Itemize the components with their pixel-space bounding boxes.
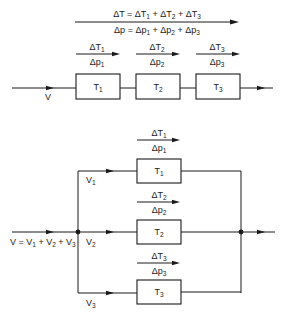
svg-text:ΔT1: ΔT1 <box>89 42 105 53</box>
arrowhead-icon <box>106 230 114 234</box>
svg-text:Δp3: Δp3 <box>152 266 167 277</box>
svg-text:ΔT3: ΔT3 <box>151 251 167 262</box>
svg-text:Δp2: Δp2 <box>150 57 165 68</box>
total-delta-p-formula: Δp = Δp1 + Δp2 + Δp3 <box>114 25 200 36</box>
svg-text:V2: V2 <box>86 237 96 248</box>
svg-text:V3: V3 <box>86 298 96 309</box>
parallel-diagram: V = V1 + V2 + V3 ΔT1 Δp1 V1 T1 ΔT2 <box>10 128 275 309</box>
arrowhead-icon <box>46 230 54 234</box>
arrowhead-icon <box>106 291 114 295</box>
series-element-2-deltas: ΔT2 Δp2 <box>136 42 180 68</box>
arrowhead-icon <box>112 52 120 56</box>
parallel-branch-2: ΔT2 Δp2 V2 T2 <box>78 190 241 248</box>
parallel-flow-total: V = V1 + V2 + V3 <box>10 237 76 248</box>
svg-text:ΔT1: ΔT1 <box>151 128 167 139</box>
svg-text:Δp1: Δp1 <box>90 57 105 68</box>
series-element-1-deltas: ΔT1 Δp1 <box>76 42 120 68</box>
svg-text:ΔT2: ΔT2 <box>149 42 165 53</box>
arrowhead-icon <box>172 200 180 204</box>
arrowhead-icon <box>232 52 240 56</box>
parallel-branch-1: ΔT1 Δp1 V1 T1 <box>78 128 241 186</box>
series-element-3-deltas: ΔT3 Δp3 <box>196 42 240 68</box>
parallel-branch-3: ΔT3 Δp3 V3 T3 <box>78 251 241 309</box>
diagram-canvas: ΔT = ΔT1 + ΔT2 + ΔT3 Δp = Δp1 + Δp2 + Δp… <box>0 0 290 322</box>
svg-text:ΔT2: ΔT2 <box>151 190 167 201</box>
total-delta-t-formula: ΔT = ΔT1 + ΔT2 + ΔT3 <box>113 9 201 20</box>
arrowhead-icon <box>46 86 54 90</box>
series-flow-label: V <box>45 92 51 102</box>
arrowhead-icon <box>257 86 265 90</box>
svg-text:ΔT3: ΔT3 <box>209 42 225 53</box>
svg-text:Δp1: Δp1 <box>152 143 167 154</box>
arrowhead-icon <box>172 52 180 56</box>
arrowhead-icon <box>230 20 239 25</box>
arrowhead-icon <box>172 261 180 265</box>
series-diagram: ΔT = ΔT1 + ΔT2 + ΔT3 Δp = Δp1 + Δp2 + Δp… <box>12 9 273 102</box>
svg-text:V1: V1 <box>86 175 96 186</box>
arrowhead-icon <box>172 138 180 142</box>
arrowhead-icon <box>257 230 265 234</box>
svg-text:Δp2: Δp2 <box>152 205 167 216</box>
svg-text:Δp3: Δp3 <box>210 57 225 68</box>
arrowhead-icon <box>106 169 114 173</box>
